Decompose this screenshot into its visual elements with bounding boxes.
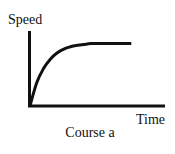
series-line xyxy=(30,44,131,106)
x-axis-label: Time xyxy=(136,112,165,127)
chart: Speed Time Course a xyxy=(0,0,175,154)
chart-title: Course a xyxy=(65,125,115,140)
y-axis-label: Speed xyxy=(8,12,42,27)
